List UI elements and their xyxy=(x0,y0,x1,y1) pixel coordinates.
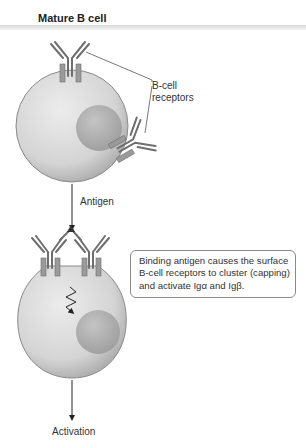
mature-b-cell xyxy=(16,42,157,182)
callout-line2: B-cell receptors to cluster (capping) xyxy=(139,267,295,279)
antigen-label: Antigen xyxy=(80,196,114,208)
activated-b-cell xyxy=(18,225,127,378)
antigen xyxy=(67,225,75,232)
activation-label: Activation xyxy=(52,426,95,438)
nucleus xyxy=(76,310,120,354)
receptors-label-line2: receptors xyxy=(152,92,194,104)
receptors-label-line1: B-cell xyxy=(152,80,194,92)
callout-line3: and activate Igα and Igβ. xyxy=(139,280,295,292)
diagram-canvas xyxy=(0,0,306,448)
callout-line1: Binding antigen causes the surface xyxy=(139,255,295,267)
receptors-label: B-cell receptors xyxy=(152,80,194,104)
capping-callout: Binding antigen causes the surface B-cel… xyxy=(130,250,296,298)
